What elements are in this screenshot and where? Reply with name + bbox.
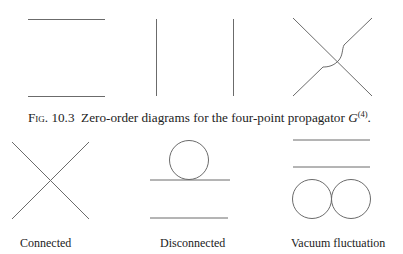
diagram-disconnected	[150, 141, 230, 219]
diagram-vertical-pair	[157, 19, 234, 96]
label-connected: Connected	[20, 236, 71, 251]
diagram-crossed-bypass	[293, 18, 372, 96]
caption-period: .	[368, 110, 371, 125]
caption-symbol: G	[348, 110, 358, 125]
caption-superscript: (4)	[358, 109, 368, 119]
label-vacuum-fluctuation: Vacuum fluctuation	[291, 236, 385, 251]
label-disconnected: Disconnected	[160, 236, 225, 251]
diagram-vacuum-fluctuation	[293, 140, 371, 219]
caption-text: Zero-order diagrams for the four-point p…	[81, 110, 348, 125]
feynman-diagrams-canvas	[0, 0, 403, 254]
figure-caption: Fig. 10.3 Zero-order diagrams for the fo…	[28, 109, 371, 126]
diagram-connected	[12, 142, 89, 219]
diagram-horizontal-pair	[28, 20, 105, 97]
figure-number: Fig. 10.3	[28, 110, 75, 125]
